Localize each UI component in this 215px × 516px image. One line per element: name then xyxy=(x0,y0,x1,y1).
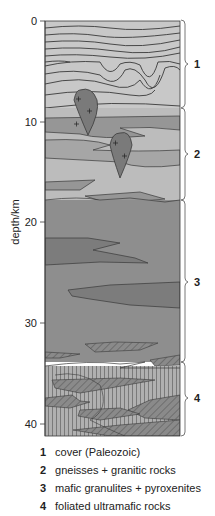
tick-label-10: 10 xyxy=(25,116,37,128)
unit-3-mafic xyxy=(45,200,180,362)
legend: 1 cover (Paleozoic) 2 gneisses + graniti… xyxy=(40,443,201,515)
unit-marker-1: 1 xyxy=(194,58,200,70)
tick-label-20: 20 xyxy=(25,216,37,228)
legend-item-2: 2 gneisses + granitic rocks xyxy=(40,461,201,479)
unit-braces xyxy=(181,20,188,436)
axis-label: depth/km xyxy=(9,199,21,244)
depth-axis: 0 10 20 30 40 depth/km xyxy=(9,15,45,436)
unit-marker-3: 3 xyxy=(194,276,200,288)
legend-item-3: 3 mafic granulites + pyroxenites xyxy=(40,479,201,497)
legend-item-4: 4 foliated ultramafic rocks xyxy=(40,497,201,515)
column-body xyxy=(45,21,180,438)
tick-label-0: 0 xyxy=(31,15,37,27)
legend-item-1: 1 cover (Paleozoic) xyxy=(40,443,201,461)
tick-label-30: 30 xyxy=(25,317,37,329)
unit-marker-4: 4 xyxy=(194,392,201,404)
tick-label-40: 40 xyxy=(25,418,37,430)
unit-marker-2: 2 xyxy=(194,148,200,160)
stratigraphic-column: 0 10 20 30 40 depth/km 1 2 3 4 xyxy=(0,0,215,440)
